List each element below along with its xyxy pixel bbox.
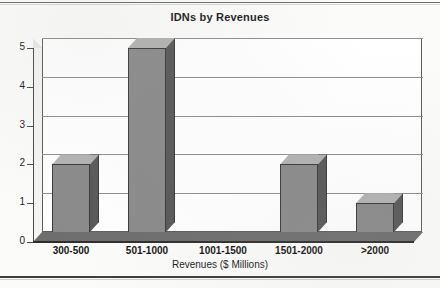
plot-left-wall: [33, 48, 42, 242]
x-axis-tick-label: >2000: [335, 245, 415, 256]
y-axis-tick-label: 1: [5, 196, 25, 207]
bar-front-face: [52, 164, 90, 242]
y-axis-tick-label: 0: [5, 235, 25, 246]
bar-front-face: [280, 164, 318, 242]
gridline: [42, 116, 423, 117]
y-axis-tick-label: 4: [5, 80, 25, 91]
y-axis-tick: [27, 48, 33, 49]
y-axis-tick: [27, 164, 33, 165]
bar-side-face: [318, 154, 327, 232]
bar-front-face: [128, 48, 166, 242]
y-axis-tick: [27, 87, 33, 88]
bar-side-face: [90, 154, 99, 232]
gridline: [42, 77, 423, 78]
x-axis-tick-label: 501-1000: [107, 245, 187, 256]
bar-side-face: [166, 38, 175, 232]
bar-column: [52, 154, 90, 242]
y-axis-tick: [27, 203, 33, 204]
plot-floor-front-edge: [33, 241, 414, 243]
bar-chart-plot: 012345 300-500501-10001001-15001501-2000…: [0, 0, 440, 288]
x-axis-tick-label: 1001-1500: [183, 245, 263, 256]
gridline: [42, 154, 423, 155]
y-axis-line: [33, 48, 34, 243]
bar-column: [128, 38, 166, 242]
y-axis-tick-label: 2: [5, 157, 25, 168]
y-axis-tick-label: 5: [5, 41, 25, 52]
x-axis-tick-label: 300-500: [31, 245, 111, 256]
y-axis-tick-label: 3: [5, 119, 25, 130]
x-axis-title: Revenues ($ Millions): [0, 259, 440, 270]
bar-column: [280, 154, 318, 242]
x-axis-tick-label: 1501-2000: [259, 245, 339, 256]
gridline: [42, 38, 423, 39]
plot-left-wall-top: [33, 38, 43, 48]
y-axis-tick: [27, 126, 33, 127]
